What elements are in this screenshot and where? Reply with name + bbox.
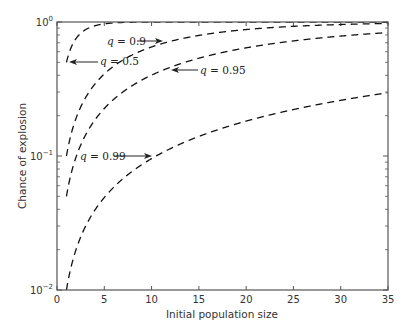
annotation-q-0.99: q = 0.99 — [80, 150, 152, 162]
svg-text:q = 0.95: q = 0.95 — [200, 64, 246, 76]
curve-q0.99 — [66, 93, 387, 290]
x-axis-label: Initial population size — [166, 308, 278, 320]
y-axis-label: Chance of explosion — [16, 103, 28, 209]
x-tick-label: 5 — [101, 294, 107, 305]
x-tick-label: 15 — [192, 294, 205, 305]
annotation-q-0.5: q = 0.5 — [69, 55, 139, 67]
y-tick-label: 10−2 — [30, 283, 53, 296]
y-tick-labels: 10010−110−2 — [30, 15, 53, 296]
svg-text:q = 0.5: q = 0.5 — [100, 55, 139, 67]
x-tick-labels: 05101520253035 — [54, 294, 395, 305]
y-tick-label: 10−1 — [30, 149, 53, 162]
x-tick-label: 0 — [54, 294, 60, 305]
annotation-q-0.95: q = 0.95 — [171, 64, 246, 76]
x-tick-label: 25 — [287, 294, 300, 305]
x-tick-label: 20 — [240, 294, 253, 305]
annotation-q-0.9: q = 0.9 — [107, 35, 163, 47]
explosion-chance-chart: Chance of explosion Initial population s… — [0, 0, 406, 333]
x-tick-label: 10 — [145, 294, 158, 305]
x-tick-label: 30 — [334, 294, 347, 305]
y-tick-label: 100 — [36, 15, 53, 28]
x-tick-label: 35 — [382, 294, 395, 305]
